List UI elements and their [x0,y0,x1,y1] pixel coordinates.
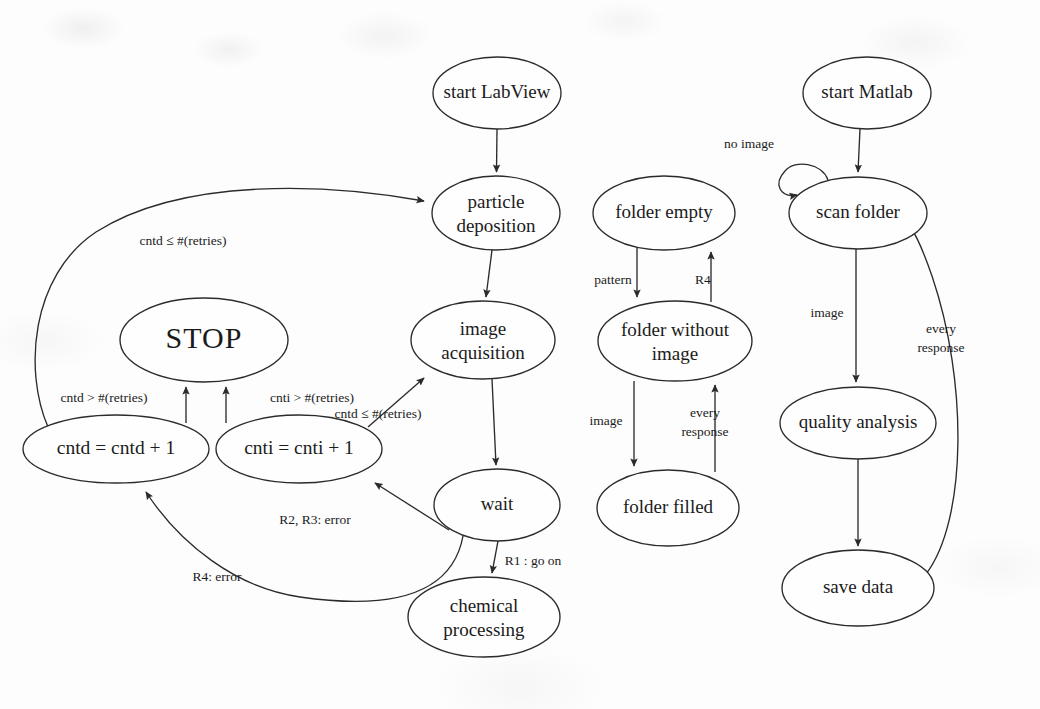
node-label-folder-without-image-line2: image [652,343,698,364]
node-shape-chemical-processing [408,577,560,657]
node-label-scan-folder: scan folder [816,201,901,222]
node-save-data[interactable]: save data [782,550,934,626]
node-wait[interactable]: wait [434,469,560,541]
node-label-cnti-increment: cnti = cnti + 1 [244,437,354,458]
edge-label-every-response-mid-line1: every [690,405,720,420]
edge-label-cnti-gt-retries: cnti > #(retries) [270,390,354,405]
node-cntd-increment[interactable]: cntd = cntd + 1 [23,415,209,483]
node-label-chemical-processing-line2: processing [443,619,525,640]
node-shape-particle-deposition [432,176,560,250]
edge-label-every-response-right-line2: response [917,340,964,355]
node-label-quality-analysis: quality analysis [799,411,918,432]
node-chemical-processing[interactable]: chemical processing [408,577,560,657]
edge-image-acquisition-to-wait [492,379,496,465]
node-label-start-labview: start LabView [443,81,550,102]
flowchart-svg: cntd ≤ #(retries) cntd > #(retries) cnti… [0,0,1040,709]
node-label-particle-deposition-line1: particle [468,191,525,212]
node-cnti-increment[interactable]: cnti = cnti + 1 [216,415,382,483]
edge-label-image-mid: image [590,413,623,428]
node-label-image-acquisition-line1: image [460,318,506,339]
edge-particle-deposition-to-image-acquisition [486,250,492,297]
node-label-particle-deposition-line2: deposition [456,215,536,236]
edge-label-no-image: no image [724,136,774,151]
node-label-wait: wait [481,493,514,514]
edge-start-labview-to-particle-deposition [497,129,498,172]
node-folder-empty[interactable]: folder empty [593,176,735,250]
node-label-folder-without-image-line1: folder without [621,319,730,340]
edge-label-pattern: pattern [594,272,632,287]
node-label-image-acquisition-line2: acquisition [441,342,525,363]
node-label-folder-filled: folder filled [623,496,714,517]
node-label-cntd-increment: cntd = cntd + 1 [57,437,175,458]
node-image-acquisition[interactable]: image acquisition [411,301,555,379]
edge-label-r4: R4 [695,272,711,287]
edge-label-cntd-gt-retries: cntd > #(retries) [60,390,147,405]
node-start-labview[interactable]: start LabView [433,57,561,129]
node-stop[interactable]: STOP [120,298,288,382]
node-label-stop: STOP [166,321,243,354]
node-particle-deposition[interactable]: particle deposition [432,176,560,250]
edge-label-r1-go-on: R1 : go on [505,553,562,568]
node-label-start-matlab: start Matlab [821,81,912,102]
edge-label-r4-error: R4: error [192,569,242,584]
edge-wait-to-chemical-processing [492,541,498,573]
node-layer: start LabView particle deposition image … [23,57,936,657]
node-folder-filled[interactable]: folder filled [597,470,739,546]
node-label-chemical-processing-line1: chemical [450,595,519,616]
node-label-folder-empty: folder empty [615,201,713,222]
edge-label-cntd-le-retries-mid: cntd ≤ #(retries) [335,406,422,421]
edge-label-every-response-mid-line2: response [681,424,728,439]
node-shape-folder-without-image [598,301,752,381]
edge-label-every-response-right-line1: every [926,321,956,336]
node-scan-folder[interactable]: scan folder [789,177,927,249]
node-start-matlab[interactable]: start Matlab [803,57,931,129]
node-quality-analysis[interactable]: quality analysis [780,387,936,459]
node-label-save-data: save data [823,576,894,597]
edge-start-matlab-to-scan-folder [858,129,860,172]
edge-label-cntd-le-retries-top: cntd ≤ #(retries) [140,233,227,248]
node-shape-image-acquisition [411,301,555,379]
edge-label-image-right: image [811,305,844,320]
node-folder-without-image[interactable]: folder without image [598,301,752,381]
diagram-canvas: cntd ≤ #(retries) cntd > #(retries) cnti… [0,0,1040,709]
edge-label-r2-r3-error: R2, R3: error [279,512,351,527]
